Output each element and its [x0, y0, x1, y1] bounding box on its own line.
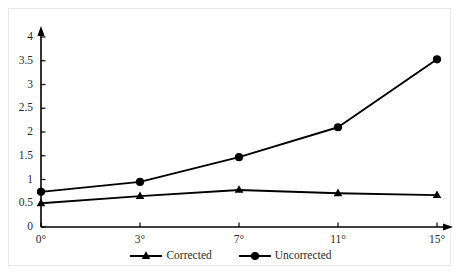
y-axis-tick-label: 2.5 — [0, 102, 33, 114]
y-axis-tick-label: 1 — [0, 174, 33, 186]
x-axis-arrow-icon — [443, 223, 453, 230]
legend-item-corrected[interactable]: Corrected — [129, 249, 211, 263]
x-axis-tick-label: 0° — [21, 234, 61, 246]
data-point-circle-marker — [37, 188, 45, 196]
y-axis-tick-label: 3 — [0, 79, 33, 91]
y-axis-tick-label: 4 — [0, 31, 33, 43]
y-axis-tick-label: 0.5 — [0, 197, 33, 209]
x-axis-tick-label: 7° — [219, 234, 259, 246]
series-line-uncorrected — [41, 59, 437, 192]
y-axis-tick-label: 0 — [0, 221, 33, 233]
data-point-circle-marker — [433, 55, 441, 63]
legend-swatch-triangle-icon — [129, 249, 163, 263]
x-axis-tick-label: 3° — [120, 234, 160, 246]
series-uncorrected — [37, 55, 441, 196]
y-axis-tick-label: 2 — [0, 126, 33, 138]
data-series — [37, 55, 442, 206]
legend-swatch-circle-icon — [238, 249, 272, 263]
legend-label: Corrected — [166, 250, 211, 262]
y-axis-tick-label: 3.5 — [0, 55, 33, 67]
data-point-circle-marker — [136, 178, 144, 186]
x-axis-tick-label: 11° — [318, 234, 358, 246]
y-axis-arrow-icon — [37, 26, 44, 36]
y-axis-tick-label: 1.5 — [0, 150, 33, 162]
legend-circle-marker — [251, 252, 259, 260]
legend-label: Uncorrected — [275, 250, 332, 262]
chart-figure: 00.511.522.533.54 0°3°7°11°15° Corrected… — [0, 0, 461, 280]
data-point-triangle-marker — [235, 185, 244, 193]
data-point-circle-marker — [235, 153, 243, 161]
series-corrected — [37, 185, 442, 206]
legend-item-uncorrected[interactable]: Uncorrected — [238, 249, 332, 263]
x-axis-tick-label: 15° — [417, 234, 457, 246]
data-point-circle-marker — [334, 123, 342, 131]
